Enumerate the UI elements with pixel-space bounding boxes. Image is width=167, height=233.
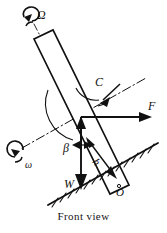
couple-label: C xyxy=(95,75,104,89)
front-view-diagram: Ω ω C F β xyxy=(0,0,167,233)
spin-arrow xyxy=(7,141,23,162)
diagram-canvas: Ω ω C F β xyxy=(0,0,167,233)
angle-label: β xyxy=(62,141,69,155)
origin-label: O xyxy=(116,186,124,198)
precession-label: Ω xyxy=(37,8,46,22)
figure-caption: Front view xyxy=(0,210,167,222)
force-label: F xyxy=(147,99,156,113)
spin-label: ω xyxy=(25,159,32,170)
weight-label: W xyxy=(64,177,75,191)
